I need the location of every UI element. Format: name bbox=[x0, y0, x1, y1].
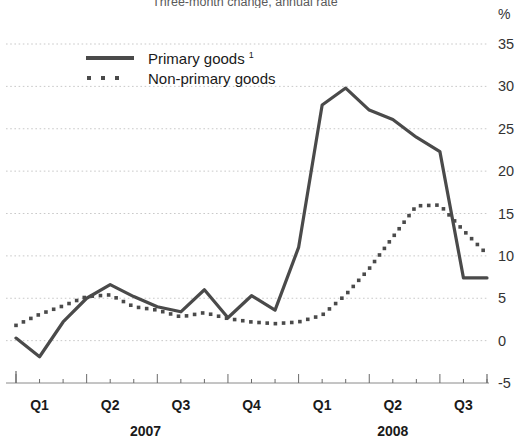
x-axis-year-label: 2007 bbox=[130, 424, 161, 438]
chart-legend: Primary goods1 Non-primary goods bbox=[86, 48, 276, 88]
legend-label-non-primary-goods: Non-primary goods bbox=[148, 70, 276, 87]
legend-item-non-primary-goods: Non-primary goods bbox=[86, 68, 276, 88]
y-axis-tick-label: -5 bbox=[498, 376, 511, 391]
dotted-line-key-icon bbox=[86, 71, 134, 85]
legend-label-primary-goods: Primary goods1 bbox=[148, 50, 254, 67]
solid-line-key-icon bbox=[86, 51, 134, 65]
y-axis-tick-label: 30 bbox=[498, 79, 514, 94]
y-axis-tick-label: 20 bbox=[498, 164, 514, 179]
x-axis-tick-label: Q3 bbox=[454, 398, 473, 412]
x-axis-tick-label: Q3 bbox=[172, 398, 191, 412]
x-axis-tick-label: Q2 bbox=[101, 398, 120, 412]
y-axis-tick-label: 15 bbox=[498, 206, 514, 221]
y-axis-tick-label: 0 bbox=[498, 333, 506, 348]
gridlines bbox=[6, 44, 489, 341]
x-axis-tick-label: Q2 bbox=[383, 398, 402, 412]
x-axis-year-label: 2008 bbox=[377, 424, 408, 438]
y-axis-tick-label: 10 bbox=[498, 249, 514, 264]
x-axis-tick-label: Q1 bbox=[313, 398, 332, 412]
chart-container: Three-month change, annual rate % 353025… bbox=[0, 0, 531, 445]
x-axis-tick-label: Q4 bbox=[242, 398, 261, 412]
legend-item-primary-goods: Primary goods1 bbox=[86, 48, 276, 68]
x-axis-tick-label: Q1 bbox=[30, 398, 49, 412]
y-axis-tick-label: 5 bbox=[498, 291, 506, 306]
y-axis-tick-label: 35 bbox=[498, 37, 514, 52]
axis-tick-marks bbox=[6, 371, 489, 383]
y-axis-tick-label: 25 bbox=[498, 122, 514, 137]
